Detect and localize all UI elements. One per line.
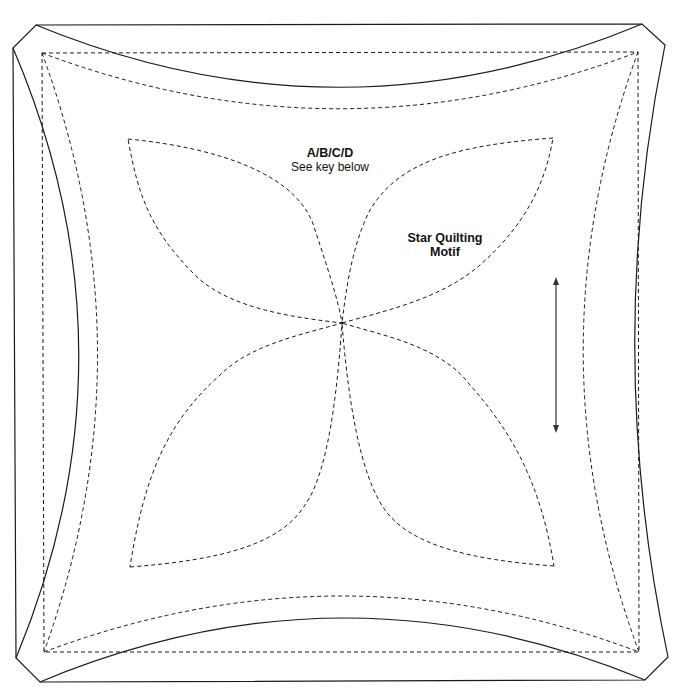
grainline-arrow — [553, 277, 559, 433]
center-point-marker — [341, 322, 344, 325]
dashed-square-outline — [42, 52, 639, 652]
top-seam-arc — [36, 24, 642, 87]
bottom-seam-arc — [40, 618, 645, 682]
motif-title-line2: Motif — [380, 246, 510, 260]
left-seam-arc — [13, 48, 79, 658]
right-inner-dashed-curve — [583, 52, 639, 652]
left-inner-dashed-curve — [42, 53, 98, 652]
motif-label: Star Quilting Motif — [380, 232, 510, 260]
top-inner-dashed-curve — [42, 52, 638, 109]
arrowhead-down-icon — [553, 425, 559, 433]
key-title: A/B/C/D — [270, 147, 390, 161]
outer-cutting-line — [13, 24, 668, 682]
arrowhead-up-icon — [553, 277, 559, 285]
key-label: A/B/C/D See key below — [270, 147, 390, 174]
petal-bottom-left — [130, 323, 342, 567]
quilt-pattern-diagram — [0, 0, 685, 695]
petal-bottom-right — [342, 323, 554, 566]
motif-title-line1: Star Quilting — [380, 232, 510, 246]
key-subtitle: See key below — [270, 161, 390, 174]
bottom-inner-dashed-curve — [44, 596, 639, 652]
